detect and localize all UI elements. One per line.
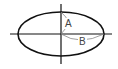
label-b: B [79,36,86,47]
ellipse-diagram: A B [0,0,118,69]
label-a: A [65,18,72,29]
